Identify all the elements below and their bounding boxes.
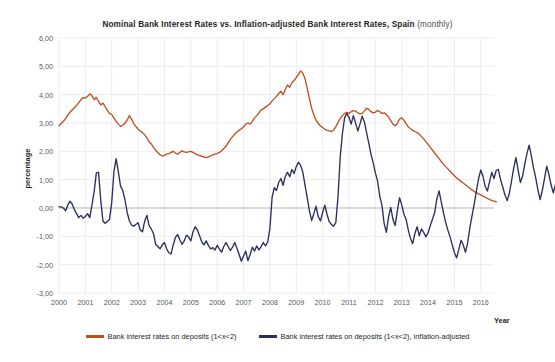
x-tick-label: 2006 <box>209 298 225 307</box>
y-tick-label: 4,00 <box>39 90 53 99</box>
x-tick-label: 2009 <box>288 298 304 307</box>
legend-swatch-real <box>259 335 277 337</box>
x-tick-label: 2010 <box>315 298 331 307</box>
x-tick-label: 2015 <box>447 298 463 307</box>
x-tick-label: 2005 <box>183 298 199 307</box>
x-tick-label: 2007 <box>236 298 252 307</box>
series-line-nominal <box>59 71 496 202</box>
legend-item-nominal[interactable]: Bank interest rates on deposits (1<x<2) <box>86 332 237 341</box>
gridlines <box>59 38 494 293</box>
legend-label-nominal: Bank interest rates on deposits (1<x<2) <box>108 332 237 341</box>
legend-item-real[interactable]: Bank interest rates on deposits (1<x<2),… <box>259 332 470 341</box>
x-tick-label: 2000 <box>51 298 67 307</box>
y-tick-label: -3,00 <box>37 289 53 298</box>
chart-title: Nominal Bank Interest Rates vs. Inflatio… <box>0 20 555 29</box>
y-tick-label: 5,00 <box>39 62 53 71</box>
y-tick-label: 3,00 <box>39 119 53 128</box>
x-tick-label: 2011 <box>341 298 356 307</box>
x-tick-label: 2008 <box>262 298 278 307</box>
plot-area: 6,005,004,003,002,001,000,00-1,00-2,00-3… <box>59 38 494 293</box>
x-tick-label: 2016 <box>473 298 489 307</box>
y-tick-label: 6,00 <box>39 34 53 43</box>
y-tick-label: -2,00 <box>37 260 53 269</box>
x-tick-label: 2014 <box>420 298 436 307</box>
x-tick-label: 2012 <box>367 298 383 307</box>
x-tick-label: 2004 <box>157 298 173 307</box>
chart-svg <box>59 38 494 293</box>
x-axis-label: Year <box>494 316 510 325</box>
x-tick-label: 2003 <box>130 298 146 307</box>
y-axis-label: percentage <box>14 134 28 204</box>
y-tick-label: 2,00 <box>39 147 53 156</box>
legend-swatch-nominal <box>86 335 104 337</box>
chart-title-suffix: (monthly) <box>417 20 452 29</box>
y-tick-label: -1,00 <box>37 232 53 241</box>
chart-container: Nominal Bank Interest Rates vs. Inflatio… <box>0 0 555 362</box>
x-tick-label: 2001 <box>77 298 93 307</box>
x-tick-label: 2013 <box>394 298 410 307</box>
x-tick-label: 2002 <box>104 298 120 307</box>
legend-label-real: Bank interest rates on deposits (1<x<2),… <box>281 332 470 341</box>
y-tick-label: 0,00 <box>39 204 53 213</box>
chart-legend: Bank interest rates on deposits (1<x<2) … <box>0 332 555 341</box>
y-tick-label: 1,00 <box>39 175 53 184</box>
chart-title-main: Nominal Bank Interest Rates vs. Inflatio… <box>102 20 414 29</box>
